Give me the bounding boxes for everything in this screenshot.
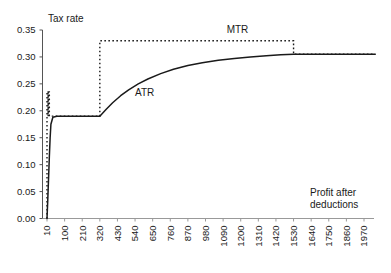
x-axis-tick-label: 760 xyxy=(165,226,176,242)
y-axis-title: Tax rate xyxy=(48,13,84,24)
x-axis-tick-label: 1420 xyxy=(270,226,281,247)
x-axis-tick-label: 650 xyxy=(147,226,158,242)
y-axis-tick-label: 0.10 xyxy=(17,159,36,170)
x-axis-tick-label: 540 xyxy=(129,226,140,242)
x-axis-tick-label: 1310 xyxy=(253,226,264,247)
x-axis-tick-label: 1750 xyxy=(323,226,334,247)
x-axis-tick-label: 1200 xyxy=(235,226,246,247)
x-axis-tick-label: 100 xyxy=(59,226,70,242)
x-axis-title-line1: Profit after xyxy=(310,187,357,198)
chart-canvas: 0.000.050.100.150.200.250.300.35 1010021… xyxy=(0,0,391,273)
x-axis-tick-label: 1090 xyxy=(218,226,229,247)
x-axis-tick-label: 320 xyxy=(94,226,105,242)
y-axis-tick-label: 0.20 xyxy=(17,105,36,116)
tax-rate-chart: 0.000.050.100.150.200.250.300.35 1010021… xyxy=(0,0,391,273)
y-axis-tick-label: 0.30 xyxy=(17,51,36,62)
x-axis-tick-label: 1640 xyxy=(306,226,317,247)
x-axis-tick-label: 1970 xyxy=(358,226,369,247)
y-axis-tick-label: 0.25 xyxy=(17,78,36,89)
x-axis-tick-label: 870 xyxy=(182,226,193,242)
x-axis-tick-label: 1860 xyxy=(341,226,352,247)
x-axis-tick-labels: 1010021032043054065076087098010901200131… xyxy=(41,226,369,247)
series-annotation-atr: ATR xyxy=(135,87,154,98)
y-axis-tick-label: 0.00 xyxy=(17,213,36,224)
x-axis-tick-label: 430 xyxy=(112,226,123,242)
x-axis-tick-label: 980 xyxy=(200,226,211,242)
series-annotation-mtr: MTR xyxy=(227,24,249,35)
y-axis-tick-label: 0.15 xyxy=(17,132,36,143)
x-axis-tick-label: 210 xyxy=(77,226,88,242)
x-axis-tick-label: 10 xyxy=(41,226,52,237)
y-axis-tick-label: 0.05 xyxy=(17,186,36,197)
y-axis-tick-label: 0.35 xyxy=(17,24,36,35)
x-axis-tick-label: 1530 xyxy=(288,226,299,247)
x-axis-title-line2: deductions xyxy=(310,199,358,210)
y-axis-tick-labels: 0.000.050.100.150.200.250.300.35 xyxy=(17,24,36,224)
